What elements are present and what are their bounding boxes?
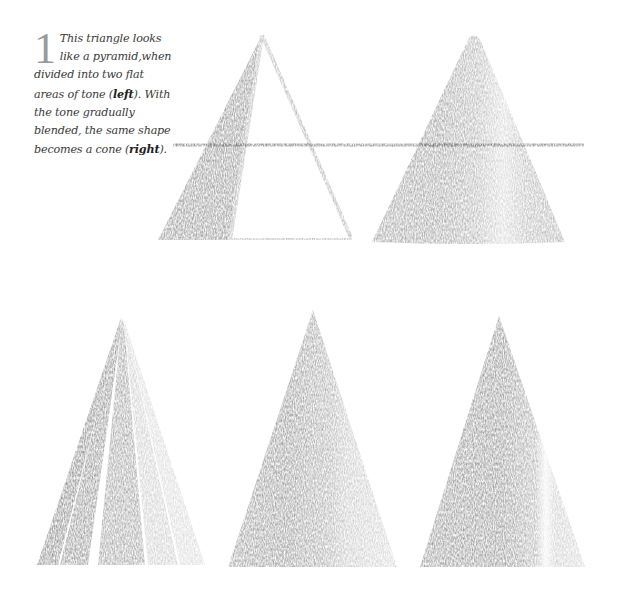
horizon-line [173, 144, 584, 147]
finished-shaded-cone [420, 316, 585, 567]
blended-strips-cone [228, 310, 397, 567]
flat-tone-pyramid [158, 35, 352, 240]
blended-tone-cone [372, 36, 565, 244]
separated-tone-strips-cone [37, 315, 205, 565]
illustrations [0, 0, 619, 595]
